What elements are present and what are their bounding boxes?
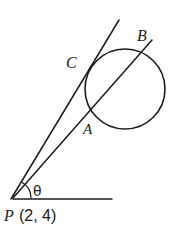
point-label-c: C [66,54,77,71]
vertex-coords-label: (2, 4) [19,207,56,224]
geometry-diagram-root: B C A θ P (2, 4) [0,0,174,225]
angle-label-theta: θ [33,183,42,199]
vertex-label-p: P [3,207,14,224]
geometry-canvas: B C A θ P (2, 4) [0,0,174,225]
point-label-a: A [82,121,93,137]
background-plate [0,0,174,225]
point-label-b: B [137,27,147,44]
